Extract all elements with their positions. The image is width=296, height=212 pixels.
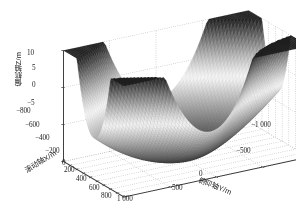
x-axis-tick-label: −600 bbox=[25, 122, 39, 129]
x-axis-tick-label: −800 bbox=[16, 108, 30, 115]
surface-plot-canvas bbox=[0, 0, 296, 212]
y-axis-tick-label: 0 bbox=[199, 171, 203, 178]
x-axis-tick-label: 200 bbox=[64, 167, 74, 174]
x-axis-tick-label: −200 bbox=[45, 148, 59, 155]
y-axis-tick-label: 500 bbox=[172, 185, 182, 192]
x-axis-tick-label: 1 000 bbox=[117, 196, 133, 203]
surface-plot-figure: 偏航轴Z/m 滚动轴X/m 俯仰轴Y/m 1050−5−800−600−400−… bbox=[0, 0, 296, 212]
z-axis-title: 偏航轴Z/m bbox=[15, 52, 22, 87]
x-axis-tick-label: 800 bbox=[101, 193, 111, 200]
y-axis-tick-label: −1 000 bbox=[251, 122, 271, 129]
z-axis-tick-label: 5 bbox=[32, 65, 36, 72]
z-axis-tick-label: 0 bbox=[32, 82, 36, 89]
x-axis-tick-label: 400 bbox=[76, 176, 86, 183]
z-axis-tick-label: 10 bbox=[27, 50, 34, 57]
x-axis-tick-label: 600 bbox=[89, 185, 99, 192]
x-axis-tick-label: −400 bbox=[35, 135, 49, 142]
y-axis-tick-label: −500 bbox=[236, 148, 250, 155]
